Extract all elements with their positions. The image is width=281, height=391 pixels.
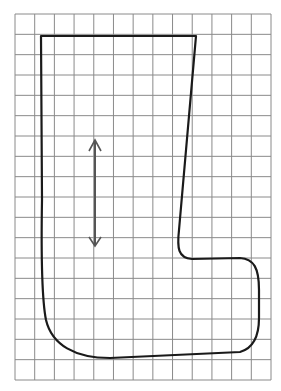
pattern-diagram [0,0,281,391]
grid-paper [15,14,271,380]
